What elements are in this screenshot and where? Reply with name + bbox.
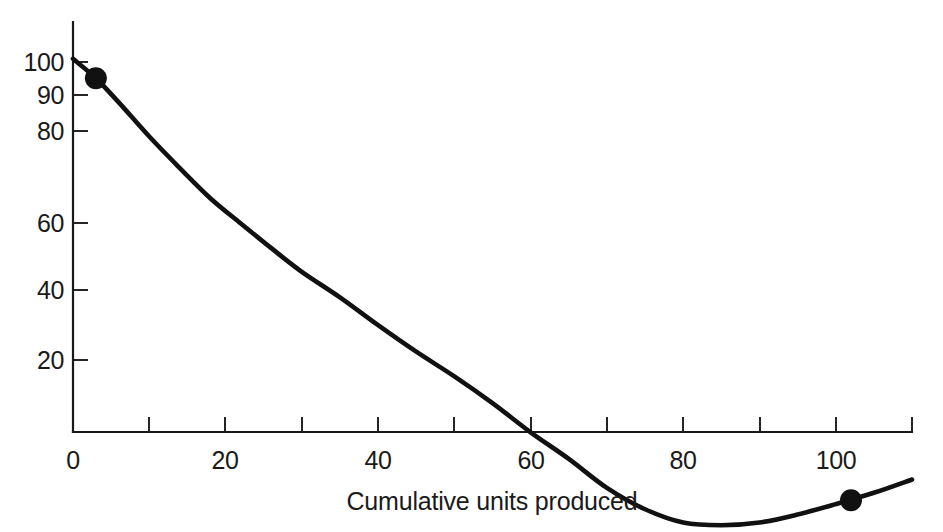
x-tick-label-20: 20 (211, 446, 238, 474)
y-axis-labels: 100 90 80 60 40 20 (23, 48, 64, 374)
x-axis-title: Cumulative units produced (347, 487, 638, 515)
chart-plot-area: 100 90 80 60 40 20 0 20 40 60 (0, 0, 943, 532)
chart-figure: 100 90 80 60 40 20 0 20 40 60 (0, 0, 943, 532)
y-tick-label-80: 80 (37, 117, 64, 145)
y-tick-label-20: 20 (37, 346, 64, 374)
x-axis-labels: 0 20 40 60 80 100 (66, 446, 856, 474)
x-tick-label-60: 60 (517, 446, 544, 474)
data-point-start-point (85, 67, 107, 89)
data-point-end-point (840, 489, 862, 511)
axis-lines (73, 22, 912, 432)
x-axis-ticks (73, 417, 912, 432)
learning-curve (73, 59, 912, 525)
x-tick-label-40: 40 (364, 446, 391, 474)
y-tick-label-40: 40 (37, 276, 64, 304)
x-tick-label-80: 80 (669, 446, 696, 474)
y-axis-ticks (73, 62, 88, 360)
x-tick-label-0: 0 (66, 446, 80, 474)
y-tick-label-100: 100 (23, 48, 64, 76)
y-tick-label-90: 90 (37, 81, 64, 109)
y-tick-label-60: 60 (37, 209, 64, 237)
data-point-markers (85, 67, 862, 511)
x-tick-label-100: 100 (816, 446, 857, 474)
